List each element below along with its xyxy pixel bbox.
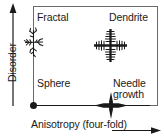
region-label-fractal: Fractal bbox=[37, 12, 68, 23]
region-label-needle-growth: Needle growth bbox=[113, 78, 146, 100]
dendrite-glyph bbox=[94, 29, 127, 62]
y-axis-label: Disorder bbox=[7, 35, 18, 91]
dendrite-cross-icon bbox=[94, 29, 127, 62]
fractal-cluster-icon bbox=[24, 28, 42, 57]
x-axis-label: Anisotropy (four-fold) bbox=[31, 119, 127, 130]
region-label-sphere: Sphere bbox=[37, 78, 70, 89]
right-arrow-icon bbox=[151, 127, 161, 134]
morphology-phase-diagram: Fractal Dendrite Sphere Needle growth An… bbox=[0, 0, 164, 138]
up-arrow-icon bbox=[10, 3, 17, 13]
region-label-dendrite: Dendrite bbox=[109, 12, 148, 23]
filled-dot-icon bbox=[30, 102, 37, 109]
fractal-glyph bbox=[24, 28, 42, 57]
sphere-glyph bbox=[30, 102, 37, 109]
